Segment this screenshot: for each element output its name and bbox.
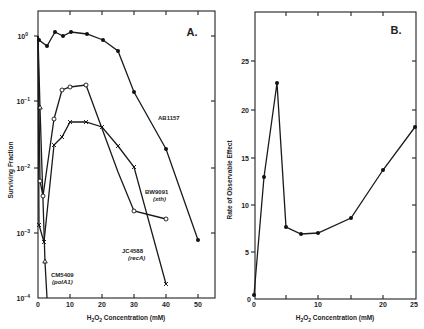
- svg-text:0: 0: [252, 301, 256, 308]
- svg-text:5: 5: [245, 249, 249, 256]
- svg-text:100: 100: [17, 31, 28, 40]
- annotation-bw9091: BW9091: [145, 189, 169, 195]
- panel-b-frame: [255, 12, 416, 299]
- svg-text:0: 0: [36, 301, 40, 308]
- series-rate-line: [254, 83, 415, 295]
- svg-text:10: 10: [241, 202, 249, 209]
- annotation-cm5409: CM5409: [51, 272, 74, 278]
- panel-a-y-axis-label: Surviving Fraction: [7, 141, 15, 198]
- svg-text:10−4: 10−4: [17, 293, 31, 302]
- svg-text:10−1: 10−1: [17, 96, 31, 105]
- panel-a-x-tick-labels: 0 10 20 30 40 50: [36, 301, 202, 308]
- panel-b-x-tick-labels: 0 10 20 25: [252, 301, 418, 308]
- svg-text:25: 25: [241, 58, 249, 65]
- svg-text:50: 50: [194, 301, 202, 308]
- annotation-reca: (recA): [128, 255, 145, 261]
- annotation-jc4588: JC4588: [122, 248, 144, 254]
- svg-text:20: 20: [98, 301, 106, 308]
- panel-b-y-axis-label: Rate of Observable Effect: [226, 140, 233, 220]
- series-bw9091-markers: [38, 83, 168, 221]
- panel-b-x-axis-label: H2O2 Concentration (mM): [296, 314, 375, 323]
- svg-text:10: 10: [314, 301, 322, 308]
- panel-a-frame: [38, 11, 215, 298]
- panel-a-y-tick-labels: 100 10−1 10−2 10−3 10−4: [17, 31, 31, 302]
- svg-text:10−3: 10−3: [17, 228, 31, 237]
- panel-a-label: A.: [187, 26, 198, 38]
- panel-b: 0 10 20 25 0 5 10 15 20 25 Rate of Obser…: [226, 12, 418, 323]
- svg-text:15: 15: [241, 155, 249, 162]
- svg-text:0: 0: [247, 296, 251, 303]
- series-rate-markers: [252, 81, 417, 297]
- svg-text:20: 20: [241, 107, 249, 114]
- panel-b-label: B.: [391, 24, 402, 36]
- panel-a-x-axis-label: H2O2 Concentration (mM): [87, 314, 166, 323]
- panel-a: 0 10 20 30 40 50 100 10−1 10−2 10−3 10−4…: [7, 11, 215, 323]
- svg-text:30: 30: [130, 301, 138, 308]
- series-jc4588-line: [38, 36, 166, 284]
- panel-b-ticks: [251, 12, 416, 299]
- panel-b-y-tick-labels: 0 5 10 15 20 25: [241, 58, 251, 303]
- svg-text:10: 10: [66, 301, 74, 308]
- svg-text:25: 25: [410, 301, 418, 308]
- annotation-pola1: (polA1): [52, 279, 73, 285]
- svg-text:20: 20: [379, 301, 387, 308]
- annotation-xth: (xth): [153, 196, 166, 202]
- annotation-ab1157: AB1157: [158, 115, 180, 121]
- figure: 0 10 20 30 40 50 100 10−1 10−2 10−3 10−4…: [0, 0, 424, 329]
- series-jc4588-markers: [37, 120, 168, 286]
- svg-text:40: 40: [162, 301, 170, 308]
- svg-text:10−2: 10−2: [17, 163, 31, 172]
